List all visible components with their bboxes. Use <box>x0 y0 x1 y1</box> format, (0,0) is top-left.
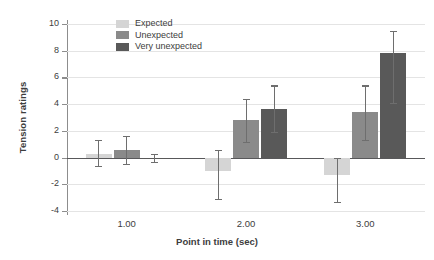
legend-item[interactable]: Very unexpected <box>116 41 202 53</box>
error-bar-cap <box>390 31 397 32</box>
error-bar <box>393 31 394 103</box>
error-bar-cap <box>334 202 341 203</box>
error-bar-cap <box>123 136 130 137</box>
error-bar-cap <box>215 150 222 151</box>
error-bar-cap <box>362 85 369 86</box>
error-bar-cap <box>271 85 278 86</box>
y-axis-tick-label: 0 <box>37 153 59 162</box>
error-bar-cap <box>243 142 250 143</box>
legend-swatch-icon <box>116 43 129 51</box>
y-axis-tick <box>62 131 67 132</box>
error-bar <box>126 136 127 164</box>
error-bar-cap <box>123 164 130 165</box>
y-axis-tick-label: 4 <box>37 99 59 108</box>
error-bar <box>274 85 275 132</box>
error-bar-cap <box>390 103 397 104</box>
y-axis-tick-label: 8 <box>37 46 59 55</box>
legend-item-label: Unexpected <box>135 31 183 40</box>
gridline <box>67 77 425 78</box>
zero-baseline <box>67 158 425 159</box>
error-bar-cap <box>151 162 158 163</box>
y-axis-tick <box>62 24 67 25</box>
gridline <box>67 211 425 212</box>
y-axis-tick <box>62 77 67 78</box>
x-axis-title: Point in time (sec) <box>0 236 434 247</box>
x-axis-tick-label: 2.00 <box>216 218 276 229</box>
y-axis-tick-label: -2 <box>37 179 59 188</box>
y-axis-tick <box>62 184 67 185</box>
y-axis-tick-label: -4 <box>37 206 59 215</box>
error-bar-cap <box>95 166 102 167</box>
error-bar <box>218 150 219 199</box>
error-bar-cap <box>271 132 278 133</box>
legend-item[interactable]: Expected <box>116 18 202 30</box>
error-bar-cap <box>215 199 222 200</box>
y-axis-tick <box>62 51 67 52</box>
y-axis-tick <box>62 211 67 212</box>
x-axis-tick-label: 3.00 <box>335 218 395 229</box>
legend-item[interactable]: Unexpected <box>116 30 202 42</box>
error-bar-cap <box>362 140 369 141</box>
legend-item-label: Very unexpected <box>135 42 202 51</box>
error-bar <box>154 154 155 162</box>
x-axis-tick-label: 1.00 <box>97 218 157 229</box>
error-bar-cap <box>334 158 341 159</box>
error-bar-cap <box>151 154 158 155</box>
y-axis-line <box>67 20 68 215</box>
y-axis-tick <box>62 104 67 105</box>
y-axis-tick-label: 10 <box>37 19 59 28</box>
error-bar <box>98 140 99 165</box>
legend-swatch-icon <box>116 20 129 28</box>
legend-item-label: Expected <box>135 19 173 28</box>
chart-figure: Tension ratings -4-20246810 1.002.003.00… <box>0 0 434 260</box>
error-bar <box>337 158 338 202</box>
gridline <box>67 184 425 185</box>
error-bar <box>246 99 247 142</box>
y-axis-tick-label: 2 <box>37 126 59 135</box>
error-bar <box>365 85 366 140</box>
chart-legend: ExpectedUnexpectedVery unexpected <box>116 18 202 53</box>
error-bar-cap <box>95 140 102 141</box>
y-axis-tick-label: 6 <box>37 72 59 81</box>
legend-swatch-icon <box>116 31 129 39</box>
y-axis-title: Tension ratings <box>17 48 28 188</box>
error-bar-cap <box>243 99 250 100</box>
